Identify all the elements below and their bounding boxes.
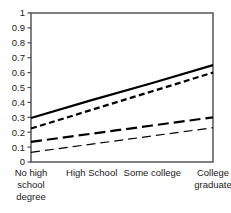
y-tick-label: 0.1 <box>12 142 25 153</box>
x-tick-label-line: school <box>17 179 44 190</box>
y-tick-label: 0.4 <box>12 97 25 108</box>
y-tick-label: 1 <box>20 7 25 18</box>
x-tick-label-line: No high <box>15 167 48 178</box>
series-2-short-dash-thick <box>31 73 213 129</box>
data-series-group <box>31 65 213 152</box>
series-1-solid-thick <box>31 65 213 118</box>
x-tick-label-line: High School <box>66 167 117 178</box>
y-tick-label: 0.9 <box>12 22 25 33</box>
y-tick-label: 0.8 <box>12 37 25 48</box>
y-tick-label: 0.3 <box>12 112 25 123</box>
y-tick-label: 0 <box>20 156 25 167</box>
x-tick-label-line: graduate <box>194 179 231 190</box>
x-axis-tick-labels: No highschooldegreeHigh SchoolSome colle… <box>15 167 231 202</box>
line-chart: 00.10.20.30.40.50.60.70.80.91 No highsch… <box>0 0 231 213</box>
y-tick-label: 0.7 <box>12 52 25 63</box>
y-tick-label: 0.5 <box>12 82 25 93</box>
chart-canvas: 00.10.20.30.40.50.60.70.80.91 No highsch… <box>0 0 231 213</box>
y-tick-label: 0.6 <box>12 67 25 78</box>
x-tick-label-line: Some college <box>124 167 182 178</box>
x-tick-label-line: College <box>197 167 229 178</box>
series-4-long-dash-thin <box>31 128 213 153</box>
y-axis-tick-labels: 00.10.20.30.40.50.60.70.80.91 <box>12 7 25 167</box>
x-tick-label-line: degree <box>16 191 46 202</box>
y-tick-label: 0.2 <box>12 127 25 138</box>
